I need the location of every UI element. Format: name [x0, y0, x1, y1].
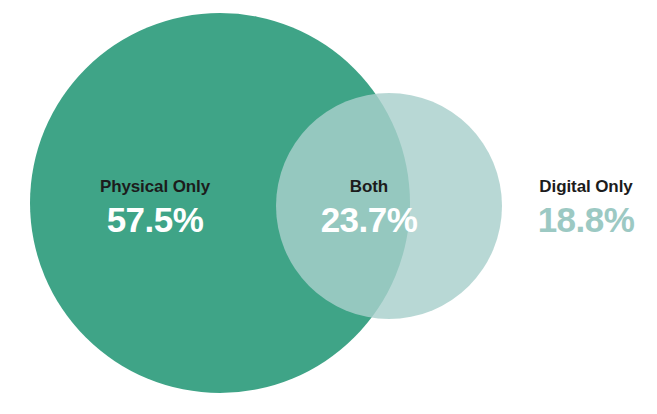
region-label-physical-only: Physical Only 57.5%: [62, 178, 248, 237]
region-value-physical-only: 57.5%: [62, 202, 248, 237]
region-name-physical-only: Physical Only: [62, 178, 248, 195]
region-label-digital-only: Digital Only 18.8%: [519, 178, 653, 237]
region-name-both: Both: [302, 178, 436, 195]
venn-diagram-chart: Physical Only 57.5% Both 23.7% Digital O…: [0, 0, 657, 414]
region-value-both: 23.7%: [302, 202, 436, 237]
region-value-digital-only: 18.8%: [519, 202, 653, 237]
region-label-both: Both 23.7%: [302, 178, 436, 237]
region-name-digital-only: Digital Only: [519, 178, 653, 195]
